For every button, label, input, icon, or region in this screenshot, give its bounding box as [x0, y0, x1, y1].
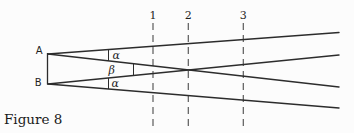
angle-label-alpha-bottom: α [112, 77, 120, 90]
screen-label-3: 3 [240, 9, 247, 22]
point-label-a: A [36, 45, 43, 56]
angle-label-alpha-top: α [113, 49, 121, 62]
point-label-b: B [35, 77, 42, 88]
ray-b-lower [48, 84, 339, 108]
screen-label-1: 1 [150, 9, 157, 22]
figure-8-panel: 1 2 3 A B α β α Figure 8 [0, 0, 354, 133]
figure-8-diagram: 1 2 3 A B α β α Figure 8 [0, 0, 354, 133]
angle-label-beta: β [108, 64, 115, 77]
ray-a-upper [48, 33, 339, 55]
screen-label-2: 2 [185, 9, 192, 22]
figure-caption: Figure 8 [4, 111, 62, 127]
